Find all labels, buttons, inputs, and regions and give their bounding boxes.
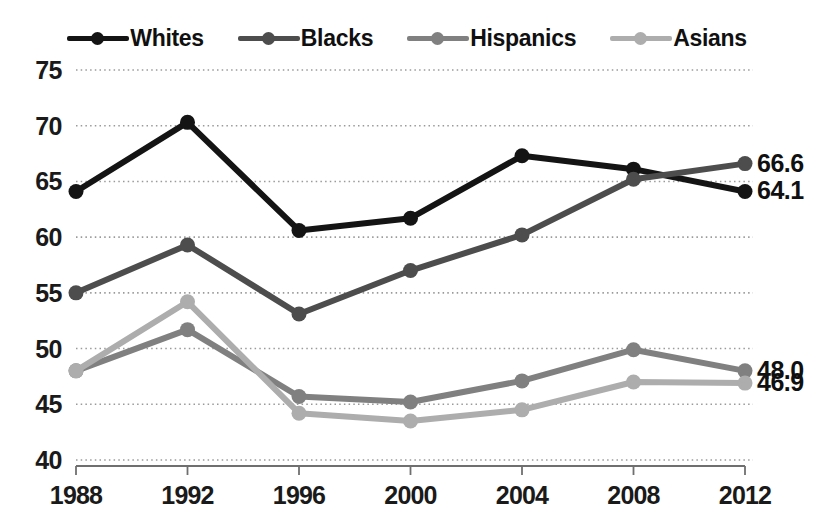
data-point[interactable] xyxy=(626,342,641,357)
data-point[interactable] xyxy=(180,322,195,337)
data-point[interactable] xyxy=(515,373,530,388)
data-point[interactable] xyxy=(180,237,195,252)
data-point[interactable] xyxy=(180,294,195,309)
data-point[interactable] xyxy=(403,211,418,226)
data-point[interactable] xyxy=(69,363,84,378)
y-tick-label: 45 xyxy=(10,392,62,417)
x-tick-label: 2012 xyxy=(690,483,800,508)
y-tick-label: 60 xyxy=(10,225,62,250)
data-point[interactable] xyxy=(69,184,84,199)
data-point[interactable] xyxy=(515,402,530,417)
data-point[interactable] xyxy=(69,285,84,300)
line-chart: Whites Blacks Hispanics Asians xyxy=(0,0,814,525)
series-line xyxy=(76,330,745,402)
series-hispanics[interactable] xyxy=(69,322,753,409)
y-tick-label: 75 xyxy=(10,58,62,83)
data-point[interactable] xyxy=(292,223,307,238)
plot-area: 4045505560657075 19881992199620002004200… xyxy=(0,0,814,525)
data-point[interactable] xyxy=(515,227,530,242)
data-point[interactable] xyxy=(292,307,307,322)
y-tick-label: 40 xyxy=(10,448,62,473)
data-point[interactable] xyxy=(403,263,418,278)
data-point[interactable] xyxy=(292,389,307,404)
x-tick-label: 2000 xyxy=(356,483,466,508)
data-point[interactable] xyxy=(626,172,641,187)
end-label-blacks: 66.6 xyxy=(757,151,804,176)
x-tick-label: 2004 xyxy=(467,483,577,508)
data-point[interactable] xyxy=(738,156,753,171)
y-tick-label: 50 xyxy=(10,337,62,362)
data-point[interactable] xyxy=(515,148,530,163)
series-line xyxy=(76,164,745,314)
plot-canvas xyxy=(0,0,814,525)
data-point[interactable] xyxy=(403,414,418,429)
x-tick-label: 1988 xyxy=(21,483,131,508)
x-tick-label: 1996 xyxy=(244,483,354,508)
x-tick-label: 2008 xyxy=(579,483,689,508)
y-tick-label: 65 xyxy=(10,169,62,194)
data-point[interactable] xyxy=(292,406,307,421)
data-point[interactable] xyxy=(403,395,418,410)
end-label-whites: 64.1 xyxy=(757,178,804,203)
x-tick-label: 1992 xyxy=(133,483,243,508)
data-point[interactable] xyxy=(626,375,641,390)
data-point[interactable] xyxy=(180,115,195,130)
data-point[interactable] xyxy=(738,184,753,199)
y-tick-label: 70 xyxy=(10,114,62,139)
end-label-asians: 46.9 xyxy=(757,370,804,395)
y-tick-label: 55 xyxy=(10,281,62,306)
data-series-group xyxy=(69,115,753,429)
data-point[interactable] xyxy=(738,376,753,391)
x-axis xyxy=(76,466,745,475)
